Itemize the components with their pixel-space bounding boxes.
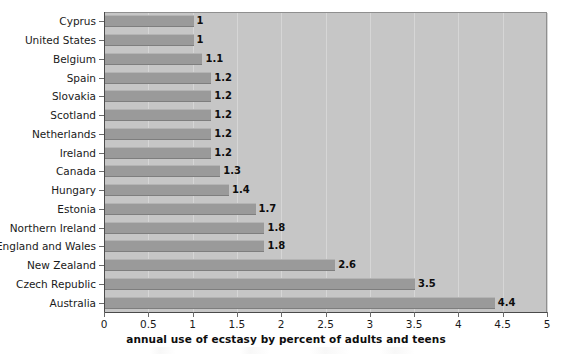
bar[interactable] — [105, 15, 194, 27]
bar[interactable] — [105, 165, 220, 177]
y-axis-tick — [99, 59, 104, 60]
y-axis-tick — [99, 115, 104, 116]
category-label: Hungary — [51, 185, 96, 196]
category-label: Cyprus — [59, 16, 96, 27]
bar-value-label: 1.8 — [267, 241, 285, 251]
bar-row: Canada1.3 — [0, 162, 572, 181]
x-axis-tick-label: 3.5 — [406, 319, 423, 330]
bar-value-label: 1.1 — [205, 54, 223, 64]
x-axis-title: annual use of ecstasy by percent of adul… — [0, 333, 572, 345]
y-axis-tick — [99, 246, 104, 247]
category-label: Ireland — [60, 147, 96, 158]
category-label: Slovakia — [52, 91, 96, 102]
y-axis-tick — [99, 209, 104, 210]
category-label: Northern Ireland — [10, 222, 96, 233]
category-label: Belgium — [53, 54, 96, 65]
y-axis-tick — [99, 96, 104, 97]
bar-rows: Cyprus1United States1Belgium1.1Spain1.2S… — [0, 12, 572, 312]
bar-row: Ireland1.2 — [0, 143, 572, 162]
y-axis-tick — [99, 190, 104, 191]
bar[interactable] — [105, 222, 264, 234]
bar-row: Spain1.2 — [0, 68, 572, 87]
bar-value-label: 1.2 — [214, 110, 232, 120]
bar-row: Estonia1.7 — [0, 200, 572, 219]
x-axis-tick — [148, 312, 149, 317]
bar[interactable] — [105, 53, 202, 65]
bar-row: Slovakia1.2 — [0, 87, 572, 106]
bar-row: Cyprus1 — [0, 12, 572, 31]
y-axis-tick — [99, 40, 104, 41]
x-axis-tick — [458, 312, 459, 317]
x-axis-tick — [326, 312, 327, 317]
category-label: United States — [25, 35, 96, 46]
bar-row: Hungary1.4 — [0, 181, 572, 200]
bar-value-label: 1 — [197, 16, 204, 26]
bar-row: United States1 — [0, 31, 572, 50]
bar-value-label: 1.8 — [267, 223, 285, 233]
category-label: Netherlands — [32, 129, 96, 140]
bar-value-label: 1.2 — [214, 91, 232, 101]
bar-value-label: 3.5 — [418, 279, 436, 289]
x-axis-tick-label: 1.5 — [229, 319, 246, 330]
bar[interactable] — [105, 72, 211, 84]
y-axis-tick — [99, 134, 104, 135]
category-label: Czech Republic — [16, 279, 96, 290]
category-label: Australia — [50, 297, 96, 308]
x-axis-tick — [370, 312, 371, 317]
bar[interactable] — [105, 278, 415, 290]
x-axis-tick — [414, 312, 415, 317]
bar-row: New Zealand2.6 — [0, 256, 572, 275]
bar-value-label: 2.6 — [338, 260, 356, 270]
bar[interactable] — [105, 128, 211, 140]
category-label: Estonia — [57, 204, 96, 215]
x-axis-tick-label: 2.5 — [317, 319, 334, 330]
x-axis-tick-label: 3 — [366, 319, 373, 330]
x-axis-tick — [547, 312, 548, 317]
bar-value-label: 1.7 — [259, 204, 277, 214]
y-axis-tick — [99, 228, 104, 229]
bar[interactable] — [105, 259, 335, 271]
y-axis-tick — [99, 265, 104, 266]
bar-row: Northern Ireland1.8 — [0, 218, 572, 237]
bar-row: England and Wales1.8 — [0, 237, 572, 256]
bar-chart: Cyprus1United States1Belgium1.1Spain1.2S… — [0, 0, 572, 356]
x-axis-tick — [503, 312, 504, 317]
y-axis-tick — [99, 78, 104, 79]
x-axis-tick — [193, 312, 194, 317]
bar-row: Netherlands1.2 — [0, 125, 572, 144]
bar-row: Czech Republic3.5 — [0, 275, 572, 294]
category-label: Canada — [56, 166, 96, 177]
bar[interactable] — [105, 184, 229, 196]
x-axis-tick — [281, 312, 282, 317]
bar-value-label: 1.4 — [232, 185, 250, 195]
y-axis-tick — [99, 153, 104, 154]
bar-value-label: 4.4 — [498, 298, 516, 308]
bar[interactable] — [105, 240, 264, 252]
x-axis-tick-label: 0.5 — [140, 319, 157, 330]
page-edge-artifact — [150, 347, 430, 354]
x-axis-tick — [237, 312, 238, 317]
y-axis-tick — [99, 303, 104, 304]
x-axis-tick-label: 5 — [544, 319, 551, 330]
bar[interactable] — [105, 34, 194, 46]
category-label: New Zealand — [27, 260, 96, 271]
x-axis-tick — [104, 312, 105, 317]
bar-value-label: 1.2 — [214, 73, 232, 83]
bar[interactable] — [105, 203, 256, 215]
bar-row: Belgium1.1 — [0, 50, 572, 69]
x-axis-tick-label: 1 — [189, 319, 196, 330]
y-axis-tick — [99, 171, 104, 172]
bar-value-label: 1 — [197, 35, 204, 45]
x-axis-ticks: 00.511.522.533.544.55 — [0, 312, 572, 334]
bar-row: Scotland1.2 — [0, 106, 572, 125]
bar[interactable] — [105, 90, 211, 102]
y-axis-tick — [99, 21, 104, 22]
y-axis-tick — [99, 284, 104, 285]
x-axis-tick-label: 2 — [278, 319, 285, 330]
bar[interactable] — [105, 109, 211, 121]
x-axis-tick-label: 4.5 — [494, 319, 511, 330]
bar[interactable] — [105, 147, 211, 159]
bar-row: Australia4.4 — [0, 293, 572, 312]
bar[interactable] — [105, 297, 495, 309]
bar-value-label: 1.3 — [223, 166, 241, 176]
